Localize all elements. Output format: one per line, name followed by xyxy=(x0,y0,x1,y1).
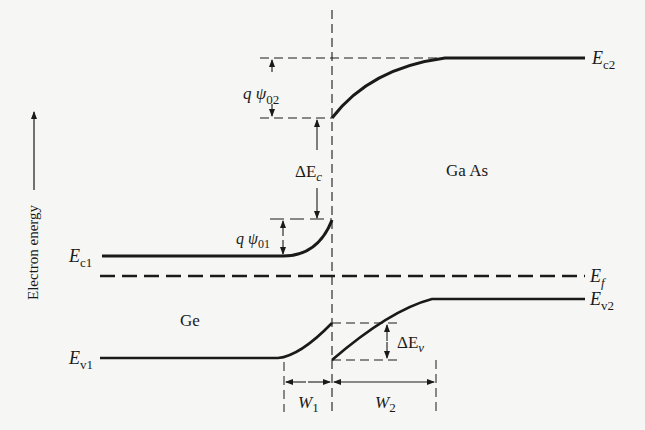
q-psi-01-label: q ψ01 xyxy=(236,230,270,251)
q-psi-02-label: q ψ02 xyxy=(243,84,279,107)
delta-ec-label: ΔEc xyxy=(295,162,322,184)
ev1-label: Ev1 xyxy=(68,348,93,372)
conduction-band-gaas xyxy=(332,58,585,118)
y-axis-label: Electron energy xyxy=(25,204,41,300)
ec1-label: Ec1 xyxy=(68,246,92,270)
ec2-label: Ec2 xyxy=(591,48,615,72)
delta-ev-label: ΔEv xyxy=(397,333,424,355)
ev2-label: Ev2 xyxy=(589,289,614,313)
conduction-band-ge xyxy=(102,220,332,256)
material-label-ge: Ge xyxy=(180,311,200,330)
valence-band-gaas xyxy=(332,299,585,360)
ef-label: Ef xyxy=(589,266,607,290)
band-diagram-canvas: Electron energy q ψ02 ΔEc q ψ01 xyxy=(0,0,645,430)
w1-label: W1 xyxy=(298,393,319,415)
material-label-gaas: Ga As xyxy=(446,161,488,180)
w2-label: W2 xyxy=(375,393,396,415)
valence-band-ge xyxy=(100,323,332,358)
band-diagram: Electron energy q ψ02 ΔEc q ψ01 xyxy=(0,0,645,430)
